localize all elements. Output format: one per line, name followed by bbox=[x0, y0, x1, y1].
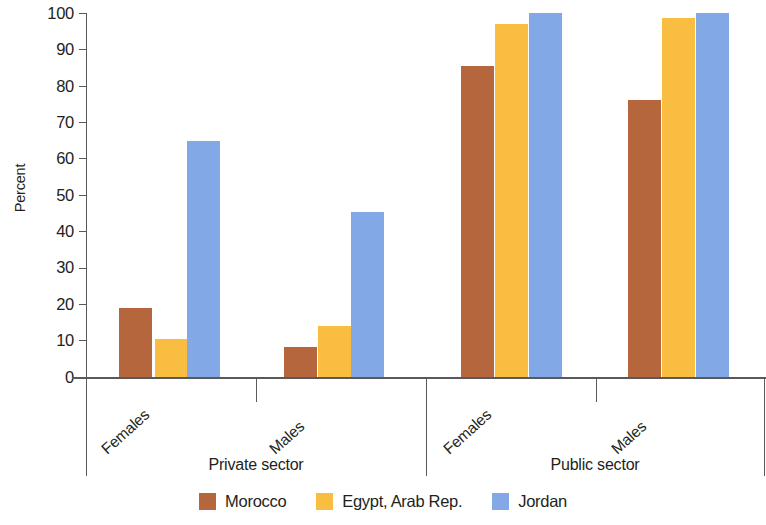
y-tick-label-20: 20 bbox=[28, 296, 74, 313]
y-tick-label-60: 60 bbox=[28, 150, 74, 167]
y-tick-mark-60 bbox=[79, 158, 86, 159]
y-tick-mark-30 bbox=[79, 268, 86, 269]
y-tick-mark-70 bbox=[79, 122, 86, 123]
y-tick-label-80: 80 bbox=[28, 78, 74, 95]
bar-public-females-egypt bbox=[495, 24, 528, 377]
y-tick-mark-50 bbox=[79, 195, 86, 196]
x-axis-tick-left-edge bbox=[86, 378, 87, 476]
group-label-private-sector: Private sector bbox=[186, 456, 326, 474]
x-label-public-males: Males bbox=[608, 418, 650, 458]
y-tick-label-70: 70 bbox=[28, 114, 74, 131]
x-axis-tick-private-mid bbox=[256, 378, 257, 402]
legend-item-egypt[interactable]: Egypt, Arab Rep. bbox=[316, 492, 462, 511]
legend-label-egypt: Egypt, Arab Rep. bbox=[342, 492, 462, 511]
bar-public-males-jordan bbox=[696, 13, 729, 377]
y-tick-label-100: 100 bbox=[28, 5, 74, 22]
y-tick-mark-100 bbox=[79, 13, 86, 14]
legend-swatch-icon-jordan bbox=[492, 493, 509, 510]
bar-private-females-jordan bbox=[187, 141, 220, 377]
group-label-public-sector: Public sector bbox=[525, 456, 665, 474]
bar-private-males-morocco bbox=[284, 347, 317, 377]
x-label-private-females: Females bbox=[98, 406, 153, 458]
bar-private-females-morocco bbox=[119, 308, 152, 377]
y-tick-mark-40 bbox=[79, 231, 86, 232]
chart-legend: Morocco Egypt, Arab Rep. Jordan bbox=[0, 492, 766, 511]
y-tick-mark-10 bbox=[79, 340, 86, 341]
legend-label-morocco: Morocco bbox=[225, 492, 286, 511]
plot-area bbox=[86, 13, 762, 377]
bar-chart: Percent 100 90 80 70 60 50 40 30 20 10 0 bbox=[0, 0, 766, 525]
y-axis-tick-labels: 100 90 80 70 60 50 40 30 20 10 0 bbox=[28, 0, 74, 525]
legend-swatch-icon-morocco bbox=[199, 493, 216, 510]
y-tick-label-0: 0 bbox=[28, 369, 74, 386]
x-axis-tick-public-mid bbox=[596, 378, 597, 402]
legend-label-jordan: Jordan bbox=[518, 492, 567, 511]
bar-public-females-jordan bbox=[529, 13, 562, 377]
y-tick-mark-20 bbox=[79, 304, 86, 305]
x-label-private-males: Males bbox=[266, 418, 308, 458]
y-tick-label-90: 90 bbox=[28, 41, 74, 58]
bar-public-females-morocco bbox=[461, 66, 494, 377]
y-tick-label-50: 50 bbox=[28, 187, 74, 204]
bar-public-males-egypt bbox=[662, 18, 695, 377]
bar-public-males-morocco bbox=[628, 100, 661, 377]
y-tick-label-40: 40 bbox=[28, 223, 74, 240]
x-label-public-females: Females bbox=[440, 406, 495, 458]
legend-item-morocco[interactable]: Morocco bbox=[199, 492, 286, 511]
x-axis-tick-right-edge bbox=[764, 378, 765, 476]
x-axis-line bbox=[72, 377, 766, 379]
y-axis-title: Percent bbox=[12, 138, 28, 238]
x-axis-tick-sector-divider bbox=[426, 378, 427, 476]
bar-private-males-egypt bbox=[318, 326, 351, 377]
y-tick-mark-90 bbox=[79, 49, 86, 50]
y-tick-label-30: 30 bbox=[28, 259, 74, 276]
y-tick-label-10: 10 bbox=[28, 332, 74, 349]
bar-private-females-egypt bbox=[155, 339, 188, 377]
legend-swatch-icon-egypt bbox=[316, 493, 333, 510]
y-tick-mark-80 bbox=[79, 86, 86, 87]
bar-private-males-jordan bbox=[351, 212, 384, 377]
legend-item-jordan[interactable]: Jordan bbox=[492, 492, 567, 511]
